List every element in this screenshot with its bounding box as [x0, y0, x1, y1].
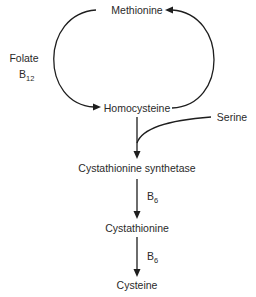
arrowhead-to-cystathionine-synthetase-icon	[134, 151, 141, 159]
node-cysteine: Cysteine	[117, 279, 158, 291]
node-cystathionine-synthetase: Cystathionine synthetase	[78, 162, 195, 174]
cofactor-folate: Folate	[9, 52, 38, 64]
pathway-diagram: Methionine Folate B12 Homocysteine Serin…	[0, 0, 256, 297]
arc-methionine-to-homocysteine	[54, 10, 96, 107]
cofactor-b12: B12	[19, 68, 34, 83]
cofactor-b6-first: B6	[147, 190, 158, 205]
arrowhead-to-cysteine-icon	[134, 269, 141, 277]
arrowhead-to-cystathionine-icon	[134, 211, 141, 219]
arc-homocysteine-to-methionine	[172, 10, 214, 108]
node-methionine: Methionine	[111, 4, 163, 16]
cofactor-b6-second: B6	[147, 250, 158, 265]
node-homocysteine: Homocysteine	[104, 102, 171, 114]
curve-serine-join	[137, 117, 211, 143]
arrowhead-to-methionine-icon	[165, 7, 173, 14]
node-serine: Serine	[217, 111, 248, 123]
arrowhead-to-homocysteine-icon	[93, 104, 101, 111]
node-cystathionine: Cystathionine	[105, 222, 169, 234]
